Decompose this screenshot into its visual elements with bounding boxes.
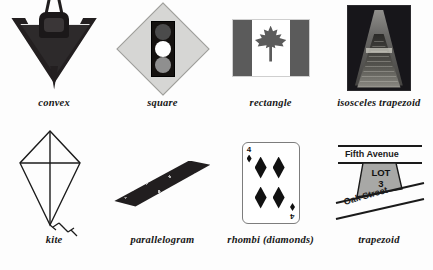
- kite-line-drawing-icon: [6, 129, 102, 237]
- card-rank-top-left: 4: [247, 146, 251, 154]
- street-lot-diagram-icon: Fifth Avenue LOT 3 Oak Street: [330, 141, 428, 225]
- convex-hub-highlight: [44, 18, 64, 32]
- lamp-green-icon: [155, 57, 171, 73]
- figure-cell-kite: kite: [0, 135, 108, 270]
- lot-label-line1: LOT: [364, 167, 398, 178]
- caption-rectangle: rectangle: [250, 97, 292, 108]
- figure-cell-square: square: [108, 0, 216, 135]
- perspective-corridor-photo-icon: [347, 5, 411, 91]
- rhombi-art: 4 4: [217, 135, 325, 230]
- caption-isosceles-trapezoid: isosceles trapezoid: [337, 97, 420, 108]
- figure-cell-parallelogram: parallelogram: [108, 135, 216, 270]
- card-pip-1: [255, 157, 267, 179]
- figure-cell-trapezoid: Fifth Avenue LOT 3 Oak Street trapezoid: [325, 135, 433, 270]
- maple-leaf-icon: [254, 26, 288, 62]
- lamp-yellow-icon: [155, 41, 171, 57]
- card-pip-3: [255, 187, 267, 209]
- figure-cell-convex: convex: [0, 0, 108, 135]
- square-art: [108, 0, 216, 95]
- caption-rhombi: rhombi (diamonds): [227, 234, 314, 245]
- shapes-figure: convex square: [0, 0, 433, 270]
- traffic-signal-sign-icon: [120, 6, 204, 90]
- kite-svg: [6, 129, 102, 237]
- lamp-red-icon: [155, 24, 171, 40]
- fifth-avenue-label: Fifth Avenue: [345, 149, 399, 159]
- kite-art: [0, 135, 108, 230]
- caption-trapezoid: trapezoid: [358, 234, 399, 245]
- flag-band-right: [290, 20, 309, 76]
- card-rank-bottom-right: 4: [290, 212, 294, 220]
- isosceles-trapezoid-art: [325, 0, 433, 95]
- caption-convex: convex: [38, 97, 70, 108]
- playing-card-four-of-diamonds-icon: 4 4: [242, 142, 300, 224]
- figure-cell-rhombi: 4 4 rhombi (diamonds): [217, 135, 325, 270]
- convex-craft-photo-icon: [11, 4, 97, 92]
- kite-tail: [50, 223, 77, 236]
- convex-art: [0, 0, 108, 95]
- parallelogram-photo-icon: [110, 143, 214, 223]
- signal-housing: [151, 21, 175, 77]
- parallelogram-texture: [114, 161, 210, 207]
- flag-band-left: [233, 20, 252, 76]
- figure-row-top: convex square: [0, 0, 433, 135]
- figure-cell-rectangle: rectangle: [217, 0, 325, 135]
- figure-cell-isosceles-trapezoid: isosceles trapezoid: [325, 0, 433, 135]
- rectangle-art: [217, 0, 325, 95]
- trapezoid-art: Fifth Avenue LOT 3 Oak Street: [325, 135, 433, 230]
- corridor-sign-band: [366, 48, 392, 53]
- card-pip-2: [273, 157, 285, 179]
- parallelogram-art: [108, 135, 216, 230]
- flag-field-center: [252, 20, 290, 76]
- canadian-flag-icon: [232, 19, 310, 77]
- figure-row-bottom: kite parallelogram 4: [0, 135, 433, 270]
- card-pip-bottom-right: [290, 203, 295, 211]
- card-pip-top-left: [247, 155, 252, 163]
- caption-parallelogram: parallelogram: [130, 234, 194, 245]
- caption-square: square: [147, 97, 177, 108]
- card-pip-4: [273, 187, 285, 209]
